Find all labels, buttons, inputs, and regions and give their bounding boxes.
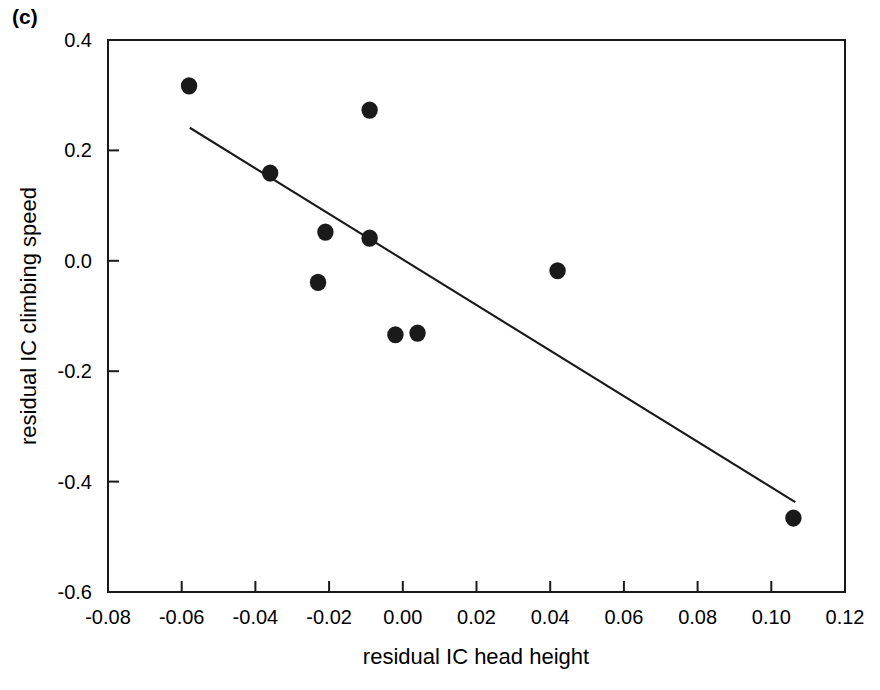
x-tick-label: -0.06 xyxy=(159,606,205,628)
data-points xyxy=(181,77,802,526)
x-tick-label: 0.08 xyxy=(678,606,717,628)
data-point xyxy=(549,262,565,279)
y-tick-label: -0.2 xyxy=(58,360,92,382)
plot-frame xyxy=(108,40,845,592)
scatter-plot: -0.08-0.06-0.04-0.020.000.020.040.060.08… xyxy=(0,0,880,690)
x-axis-tick-labels: -0.08-0.06-0.04-0.020.000.020.040.060.08… xyxy=(85,606,864,628)
x-tick-label: 0.04 xyxy=(531,606,570,628)
axis-frame xyxy=(108,40,845,592)
data-point xyxy=(262,164,278,181)
x-tick-label: -0.04 xyxy=(233,606,279,628)
x-tick-label: -0.08 xyxy=(85,606,131,628)
x-tick-label: 0.10 xyxy=(752,606,791,628)
y-tick-label: 0.0 xyxy=(64,250,92,272)
x-tick-label: -0.02 xyxy=(306,606,352,628)
x-tick-label: 0.00 xyxy=(383,606,422,628)
trendline xyxy=(190,128,795,502)
y-tick-label: 0.2 xyxy=(64,139,92,161)
x-axis-label: residual IC head height xyxy=(363,644,589,669)
data-point xyxy=(361,102,377,119)
data-point xyxy=(361,230,377,247)
y-axis-label: residual IC climbing speed xyxy=(16,187,41,445)
data-point xyxy=(310,274,326,291)
y-tick-label: -0.6 xyxy=(58,581,92,603)
data-point xyxy=(387,326,403,343)
regression-line xyxy=(190,128,795,502)
figure-panel: (c) -0.08-0.06-0.04-0.020.000.020.040.06… xyxy=(0,0,880,690)
x-tick-label: 0.06 xyxy=(604,606,643,628)
y-tick-label: -0.4 xyxy=(58,471,92,493)
x-axis-ticks xyxy=(108,581,845,592)
y-tick-label: 0.4 xyxy=(64,29,92,51)
x-tick-label: 0.12 xyxy=(826,606,865,628)
data-point xyxy=(181,77,197,94)
data-point xyxy=(317,223,333,240)
y-axis-ticks xyxy=(108,40,119,592)
x-tick-label: 0.02 xyxy=(457,606,496,628)
data-point xyxy=(409,325,425,342)
data-point xyxy=(785,509,801,526)
y-axis-tick-labels: 0.40.20.0-0.2-0.4-0.6 xyxy=(58,29,92,603)
